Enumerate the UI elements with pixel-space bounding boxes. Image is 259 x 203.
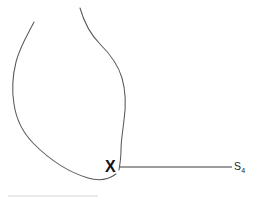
diagram-svg: [0, 0, 259, 203]
organ-contour-right-branch: [80, 8, 125, 170]
callout-label-subscript: 4: [241, 167, 245, 174]
diagram-canvas: X S4: [0, 0, 259, 203]
callout-label-s4: S4: [234, 161, 245, 172]
organ-contour-left-branch: [13, 22, 116, 180]
callout-label-base: S: [234, 160, 241, 172]
x-marker: X: [105, 159, 116, 175]
